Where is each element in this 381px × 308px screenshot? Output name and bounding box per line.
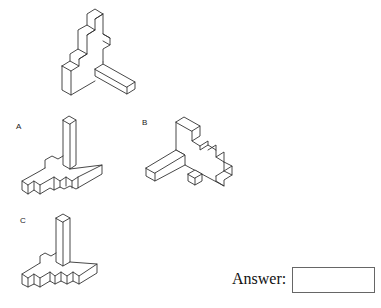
option-b-label: B [142,118,147,127]
option-c-label: C [20,216,26,225]
option-a-label: A [16,122,21,131]
answer-label: Answer: [232,270,286,288]
reference-shape [62,9,135,95]
option-b-shape[interactable] [146,117,232,186]
option-c-shape[interactable] [22,214,97,287]
option-a-shape[interactable] [22,116,102,194]
reference-figure [0,0,381,308]
answer-input-box[interactable] [292,267,375,293]
